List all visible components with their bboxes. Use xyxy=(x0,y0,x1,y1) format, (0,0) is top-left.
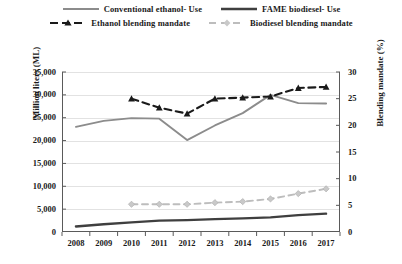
gridline-5000 xyxy=(63,209,339,210)
chart-legend: Conventional ethanol- Use FAME biodiesel… xyxy=(0,4,402,28)
legend-row-1: Conventional ethanol- Use FAME biodiesel… xyxy=(62,4,341,14)
legend-row-2: Ethanol blending mandate Biodiesel blend… xyxy=(49,18,353,28)
gridline-15000 xyxy=(63,163,339,164)
y-axis-left-tick-label: 35,000 xyxy=(8,67,56,77)
y-axis-left-tick-label: 15,000 xyxy=(8,158,56,168)
y-axis-right-tick-label: 10 xyxy=(348,173,378,183)
plot-area xyxy=(62,72,340,232)
legend-item-biodiesel-blending-mandate: Biodiesel blending mandate xyxy=(208,18,353,28)
y-axis-left-tick-label: 5,000 xyxy=(8,204,56,214)
y-axis-right-tick-label: 0 xyxy=(348,227,378,237)
legend-item-fame-biodiesel-use: FAME biodiesel- Use xyxy=(220,4,340,14)
gridline-25000 xyxy=(63,118,339,119)
legend-label-biodiesel-blending-mandate: Biodiesel blending mandate xyxy=(250,18,353,28)
gridline-30000 xyxy=(63,95,339,96)
y-axis-left-tick-label: 10,000 xyxy=(8,181,56,191)
legend-label-conventional-ethanol-use: Conventional ethanol- Use xyxy=(104,4,202,14)
y-axis-left-tick-label: 0 xyxy=(8,227,56,237)
y-axis-right-tick-label: 20 xyxy=(348,120,378,130)
legend-label-ethanol-blending-mandate: Ethanol blending mandate xyxy=(91,18,190,28)
legend-label-fame-biodiesel-use: FAME biodiesel- Use xyxy=(262,4,340,14)
y-axis-left-tick-label: 30,000 xyxy=(8,89,56,99)
gridline-35000 xyxy=(63,72,339,73)
y-axis-left-tick-label: 20,000 xyxy=(8,135,56,145)
y-axis-right-tick-label: 15 xyxy=(348,147,378,157)
y-axis-right-tick-label: 25 xyxy=(348,93,378,103)
gridline-10000 xyxy=(63,186,339,187)
y-axis-right-tick-label: 5 xyxy=(348,200,378,210)
y-axis-right-tick-label: 30 xyxy=(348,67,378,77)
solid-dark-line-icon xyxy=(220,4,258,14)
dashed-dark-line-triangle-icon xyxy=(49,18,87,28)
dashed-light-line-diamond-icon xyxy=(208,18,246,28)
solid-gray-line-icon xyxy=(62,4,100,14)
gridline-20000 xyxy=(63,141,339,142)
legend-item-ethanol-blending-mandate: Ethanol blending mandate xyxy=(49,18,190,28)
y-axis-left-tick-label: 25,000 xyxy=(8,112,56,122)
legend-item-conventional-ethanol-use: Conventional ethanol- Use xyxy=(62,4,202,14)
chart-figure: Conventional ethanol- Use FAME biodiesel… xyxy=(0,0,402,264)
y-axis-right-title: Blending mandate (%) xyxy=(375,3,385,163)
x-axis-tick-label: 2017 xyxy=(309,238,343,248)
